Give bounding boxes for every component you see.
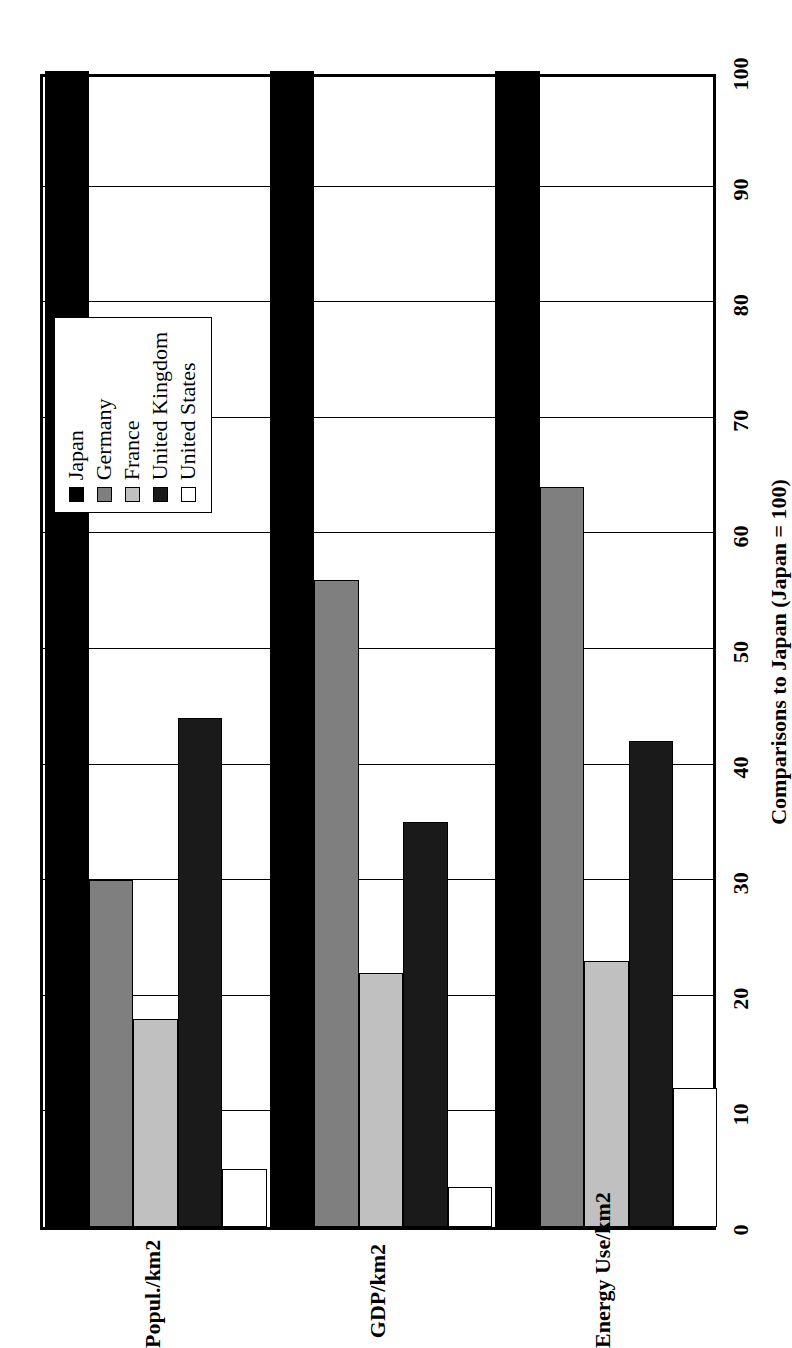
gridline: [43, 764, 713, 765]
legend-label: Germany: [93, 398, 115, 480]
category-label-gdp-km2: GDP/km2: [365, 1244, 391, 1348]
axis-tick-label: 40: [728, 738, 754, 798]
bar-germany-energy-use-km2: [540, 487, 584, 1227]
chart-legend: JapanGermanyFranceUnited KingdomUnited S…: [54, 317, 212, 514]
gridline: [43, 186, 713, 187]
bar-united-kingdom-popul-km2: [178, 718, 222, 1227]
axis-tick-label: 30: [728, 853, 754, 913]
legend-item-united-kingdom[interactable]: United Kingdom: [147, 332, 173, 503]
gridline: [43, 648, 713, 649]
value-axis-title: Comparisons to Japan (Japan = 100): [766, 479, 792, 825]
legend-item-japan[interactable]: Japan: [63, 332, 89, 503]
bar-germany-gdp-km2: [314, 580, 358, 1227]
bar-japan-energy-use-km2: [495, 71, 539, 1227]
axis-tick-label: 90: [728, 160, 754, 220]
bar-united-kingdom-energy-use-km2: [629, 741, 673, 1227]
legend-label: United Kingdom: [149, 332, 171, 481]
gridline: [43, 879, 713, 880]
legend-item-united-states[interactable]: United States: [175, 332, 201, 503]
bar-germany-popul-km2: [89, 880, 133, 1227]
bar-france-gdp-km2: [359, 973, 403, 1227]
category-label-popul-km2: Popul./km2: [140, 1244, 166, 1348]
axis-tick-label: 0: [728, 1200, 754, 1260]
legend-swatch-icon: [125, 487, 140, 502]
bar-united-states-gdp-km2: [448, 1187, 492, 1227]
legend-item-france[interactable]: France: [119, 332, 145, 503]
legend-label: Japan: [65, 430, 87, 480]
gridline: [43, 532, 713, 533]
legend-swatch-icon: [69, 487, 84, 502]
axis-tick-label: 80: [728, 275, 754, 335]
category-label-energy-use-km2: Energy Use/km2: [590, 1244, 616, 1348]
axis-tick-label: 20: [728, 969, 754, 1029]
axis-tick-label: 100: [728, 44, 754, 104]
bar-japan-gdp-km2: [270, 71, 314, 1227]
bar-united-states-energy-use-km2: [673, 1088, 717, 1227]
axis-tick-label: 60: [728, 506, 754, 566]
bar-united-kingdom-gdp-km2: [403, 822, 447, 1227]
plot-area: [40, 74, 716, 1230]
bar-france-energy-use-km2: [584, 961, 628, 1227]
legend-swatch-icon: [181, 487, 196, 502]
bar-united-states-popul-km2: [222, 1169, 266, 1227]
legend-label: France: [121, 420, 143, 480]
gridline: [43, 301, 713, 302]
axis-tick-label: 50: [728, 622, 754, 682]
legend-item-germany[interactable]: Germany: [91, 332, 117, 503]
legend-swatch-icon: [153, 487, 168, 502]
bar-japan-popul-km2: [45, 71, 89, 1227]
axis-tick-label: 10: [728, 1084, 754, 1144]
legend-label: United States: [177, 362, 199, 480]
legend-swatch-icon: [97, 487, 112, 502]
axis-tick-label: 70: [728, 391, 754, 451]
bar-france-popul-km2: [133, 1019, 177, 1227]
